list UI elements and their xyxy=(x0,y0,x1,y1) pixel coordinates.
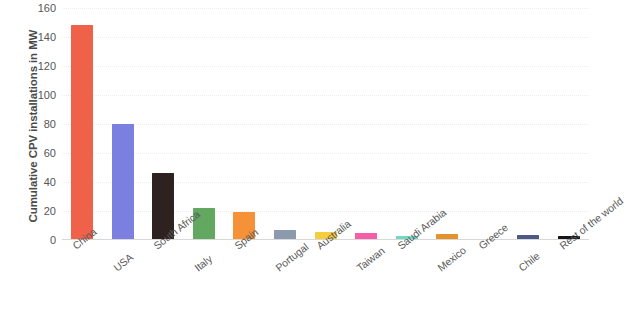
y-axis-tick-140: 140 xyxy=(22,31,56,43)
y-axis-tick-60: 60 xyxy=(22,147,56,159)
y-axis-tick-labels: 160140120100806040200 xyxy=(22,0,56,330)
bar-china xyxy=(71,25,93,240)
y-axis-tick-20: 20 xyxy=(22,205,56,217)
y-axis-tick-0: 0 xyxy=(22,234,56,246)
bars-layer xyxy=(62,8,589,240)
plot-area xyxy=(62,8,589,240)
y-axis-tick-80: 80 xyxy=(22,118,56,130)
x-label-usa: USA xyxy=(111,251,135,274)
x-axis-category-labels: ChinaUSASouth AfricaItalySpainPortugalAu… xyxy=(62,242,589,330)
x-label-taiwan: Taiwan xyxy=(354,244,387,273)
y-axis-tick-100: 100 xyxy=(22,89,56,101)
x-label-portugal: Portugal xyxy=(273,240,311,273)
y-axis-tick-160: 160 xyxy=(22,2,56,14)
x-label-italy: Italy xyxy=(192,252,214,273)
y-axis-tick-120: 120 xyxy=(22,60,56,72)
x-label-mexico: Mexico xyxy=(435,244,468,274)
bar-usa xyxy=(112,124,134,240)
x-label-chile: Chile xyxy=(516,250,542,274)
y-axis-tick-40: 40 xyxy=(22,176,56,188)
